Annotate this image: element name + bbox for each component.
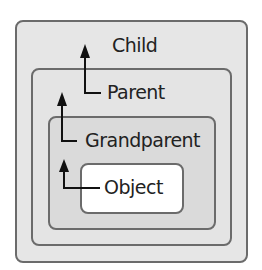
object-label: Object — [104, 178, 163, 197]
grandparent-label: Grandparent — [85, 131, 200, 150]
child-label: Child — [112, 36, 157, 55]
parent-label: Parent — [107, 83, 165, 102]
